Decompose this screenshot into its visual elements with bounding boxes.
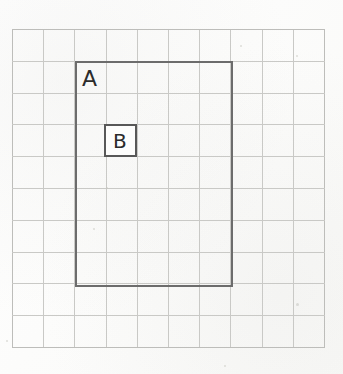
grid-line-horizontal bbox=[12, 315, 325, 316]
scan-speck bbox=[6, 340, 8, 342]
rectangle-a-label: A bbox=[82, 68, 97, 90]
grid-line-horizontal bbox=[12, 347, 325, 348]
figure-canvas: A B bbox=[0, 0, 343, 374]
grid-line-horizontal bbox=[12, 29, 325, 30]
rectangle-a bbox=[75, 61, 233, 287]
square-b-label: B bbox=[113, 131, 127, 151]
scan-speck bbox=[224, 365, 226, 367]
